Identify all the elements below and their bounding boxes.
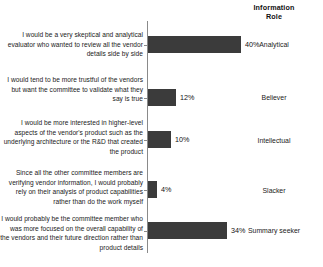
bar: [148, 131, 171, 148]
bar: [148, 36, 241, 53]
horizontal-bar-chart: Information Role I would be a very skept…: [0, 0, 323, 267]
role-label: Summary seeker: [236, 226, 312, 235]
column-header-line1: Information: [236, 3, 312, 12]
bar-value-label: 4%: [161, 181, 171, 198]
bar: [148, 222, 227, 239]
role-label: Slacker: [236, 186, 312, 195]
column-header-line2: Role: [236, 12, 312, 21]
statement-label: Since all the other committee members ar…: [0, 168, 143, 206]
statement-label: I would tend to be more trustful of the …: [0, 75, 143, 104]
statement-label: I would be a very skeptical and analytic…: [0, 30, 143, 59]
role-label: Believer: [236, 93, 312, 102]
bar-value-label: 12%: [180, 89, 194, 106]
role-label: Intellectual: [236, 136, 312, 145]
statement-label: I would be more interested in higher-lev…: [0, 118, 143, 156]
column-header-information-role: Information Role: [236, 3, 312, 21]
bar-value-label: 10%: [175, 131, 189, 148]
bar: [148, 89, 176, 106]
bar: [148, 181, 157, 198]
role-label: Analytical: [236, 40, 312, 49]
statement-label: I would probably be the committee member…: [0, 214, 143, 252]
